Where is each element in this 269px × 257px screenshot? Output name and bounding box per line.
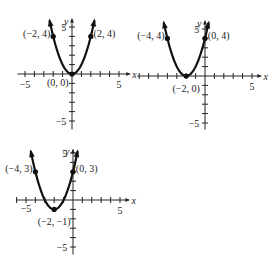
y-tick-label: −5 <box>57 242 68 253</box>
point-label: (0, 4) <box>208 30 230 42</box>
graphs-canvas: xy−555−5(−2, 4)(2, 4)(0, 0)xy55−5(−4, 4)… <box>0 0 269 257</box>
y-tick-label: 5 <box>61 22 66 33</box>
data-point <box>51 34 56 39</box>
point-label: (−2, 4) <box>23 28 50 40</box>
x-tick-label: 5 <box>250 81 255 92</box>
x-tick-label: −5 <box>20 79 31 90</box>
point-label: (−4, 4) <box>137 30 164 42</box>
data-point <box>33 169 38 174</box>
parabola-curve <box>164 22 209 76</box>
data-point <box>52 207 57 212</box>
point-label: (−4, 3) <box>5 163 32 175</box>
curve-arrow <box>90 18 95 26</box>
y-axis-arrow <box>70 19 74 23</box>
x-axis-label: x <box>131 69 137 80</box>
data-point <box>165 36 170 41</box>
data-point <box>69 71 74 76</box>
data-point <box>88 34 93 39</box>
point-label: (0, 0) <box>47 77 69 89</box>
point-label: (−2, −1) <box>38 216 71 228</box>
x-axis-arrow <box>126 72 130 76</box>
point-label: (−2, 0) <box>173 83 200 95</box>
y-tick-label: −5 <box>189 118 200 129</box>
x-tick-label: 5 <box>117 79 122 90</box>
graph-3: xy−555−5(−4, 3)(0, 3)(−2, −1) <box>5 146 136 254</box>
y-tick-label: −5 <box>56 116 67 127</box>
data-point <box>202 36 207 41</box>
y-tick-label: 5 <box>194 24 199 35</box>
x-tick-label: 5 <box>118 205 123 216</box>
data-point <box>184 73 189 78</box>
x-axis-arrow <box>125 198 129 202</box>
x-axis-label: x <box>130 195 136 206</box>
x-tick-label: −5 <box>21 203 32 214</box>
y-axis-arrow <box>203 21 207 25</box>
point-label: (2, 4) <box>94 28 116 40</box>
curve-arrow <box>29 149 34 157</box>
x-axis-arrow <box>257 74 261 78</box>
data-point <box>70 169 75 174</box>
curve-arrow <box>162 20 167 28</box>
x-axis-label: x <box>262 71 268 82</box>
graph-2: xy55−5(−4, 4)(0, 4)(−2, 0) <box>137 18 268 130</box>
graph-1: xy−555−5(−2, 4)(2, 4)(0, 0) <box>17 16 137 130</box>
curve-arrow <box>48 18 53 26</box>
y-tick-label: 5 <box>62 148 67 159</box>
point-label: (0, 3) <box>76 163 98 175</box>
